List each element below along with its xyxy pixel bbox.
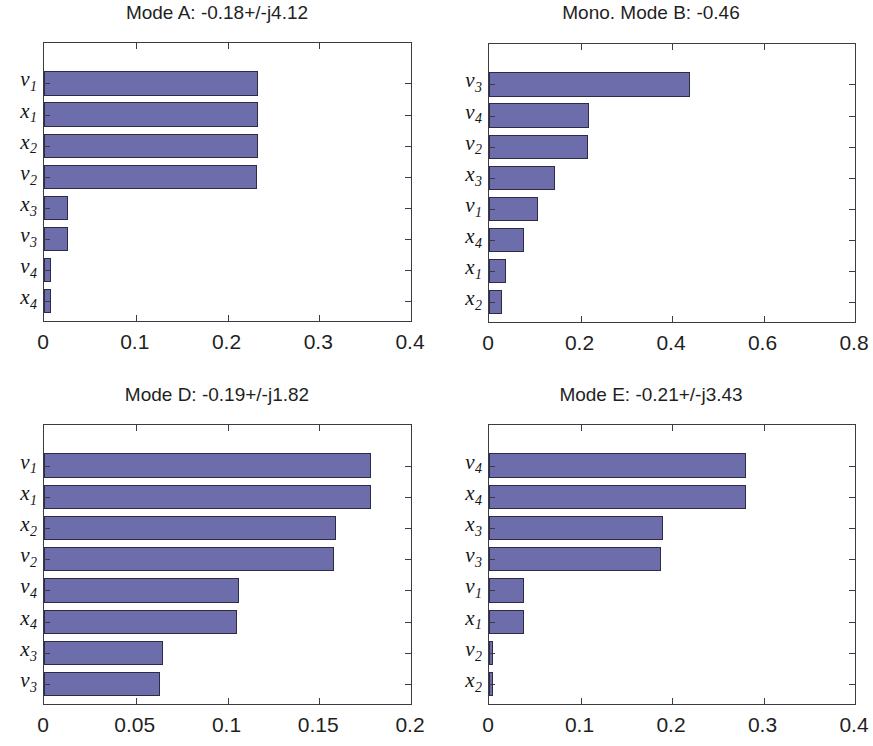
ytick-label-base: x [465, 481, 474, 505]
ytick-mark [489, 497, 495, 498]
ytick-label-mode-e-v4: v4 [446, 452, 482, 477]
ytick-mark [489, 466, 495, 467]
bar-mode-e-v4 [489, 453, 746, 477]
chart-title-mode-e: Mode E: -0.21+/-j3.43 [434, 384, 868, 406]
ytick-mark [849, 590, 855, 591]
ytick-label-base: v [465, 543, 474, 567]
ytick-label-mode-e-x2: x2 [446, 670, 482, 695]
xtick-mark [855, 425, 856, 431]
ytick-mark [849, 684, 855, 685]
ytick-mark [849, 653, 855, 654]
ytick-label-subscript: 3 [475, 555, 482, 570]
xtick-mark [764, 698, 765, 704]
ytick-label-base: x [465, 668, 474, 692]
ytick-mark [489, 528, 495, 529]
ytick-label-mode-e-v1: v1 [446, 576, 482, 601]
bar-mode-e-v3 [489, 547, 661, 571]
xtick-mark [581, 425, 582, 431]
ytick-mark [489, 559, 495, 560]
bar-mode-e-x4 [489, 485, 746, 509]
ytick-label-subscript: 1 [475, 617, 482, 632]
ytick-label-mode-e-x4: x4 [446, 483, 482, 508]
ytick-mark [849, 466, 855, 467]
ytick-label-base: x [465, 606, 474, 630]
ytick-label-subscript: 2 [475, 680, 482, 695]
ytick-mark [489, 684, 495, 685]
ytick-label-subscript: 1 [475, 586, 482, 601]
xtick-label-mode-e-3: 0.3 [723, 713, 803, 737]
xtick-mark [581, 698, 582, 704]
ytick-mark [849, 497, 855, 498]
ytick-label-subscript: 3 [475, 524, 482, 539]
bars-layer-mode-e [489, 425, 855, 704]
xtick-mark [764, 425, 765, 431]
ytick-label-mode-e-v2: v2 [446, 639, 482, 664]
plot-area-mode-e [488, 424, 856, 705]
xtick-mark [672, 698, 673, 704]
ytick-label-base: v [465, 637, 474, 661]
ytick-label-mode-e-v3: v3 [446, 545, 482, 570]
xtick-label-mode-e-1: 0.1 [540, 713, 620, 737]
ytick-label-subscript: 4 [475, 461, 482, 476]
bar-mode-e-x3 [489, 516, 663, 540]
xtick-label-mode-e-0: 0 [448, 713, 528, 737]
ytick-label-base: v [465, 450, 474, 474]
ytick-label-subscript: 4 [475, 493, 482, 508]
ytick-mark [489, 653, 495, 654]
ytick-mark [849, 622, 855, 623]
xtick-label-mode-e-4: 0.4 [814, 713, 873, 737]
xtick-mark [672, 425, 673, 431]
ytick-label-mode-e-x3: x3 [446, 514, 482, 539]
ytick-mark [489, 590, 495, 591]
ytick-mark [849, 528, 855, 529]
ytick-label-mode-e-x1: x1 [446, 608, 482, 633]
xtick-mark [855, 698, 856, 704]
xtick-label-mode-e-2: 0.2 [631, 713, 711, 737]
ytick-label-base: x [465, 512, 474, 536]
ytick-mark [849, 559, 855, 560]
ytick-mark [489, 622, 495, 623]
ytick-label-base: v [465, 574, 474, 598]
ytick-label-subscript: 2 [475, 649, 482, 664]
